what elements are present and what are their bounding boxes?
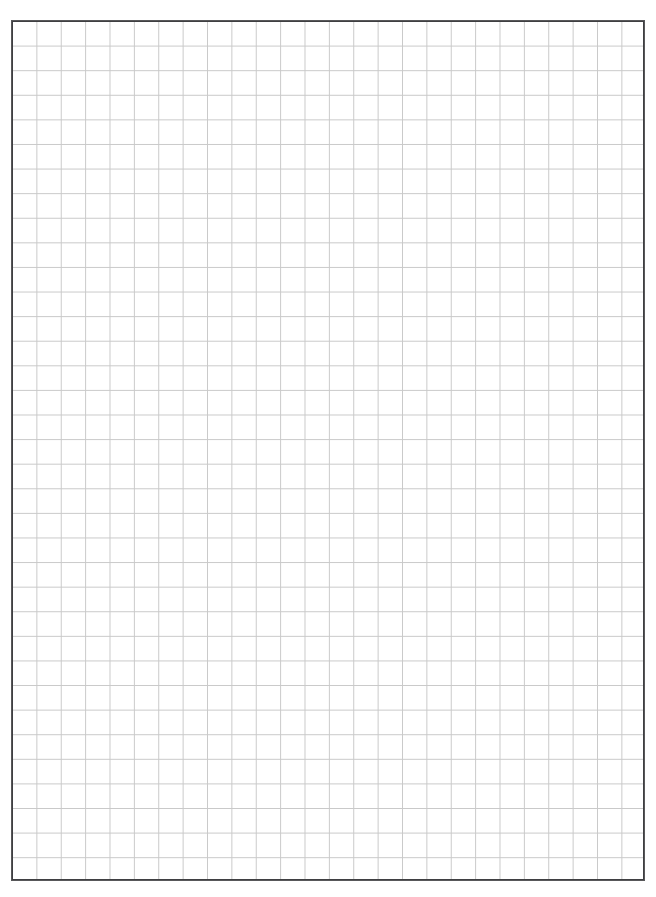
clipped-header-text <box>0 0 656 5</box>
grid-outer-border <box>12 21 644 880</box>
graph-paper-grid <box>11 20 645 881</box>
